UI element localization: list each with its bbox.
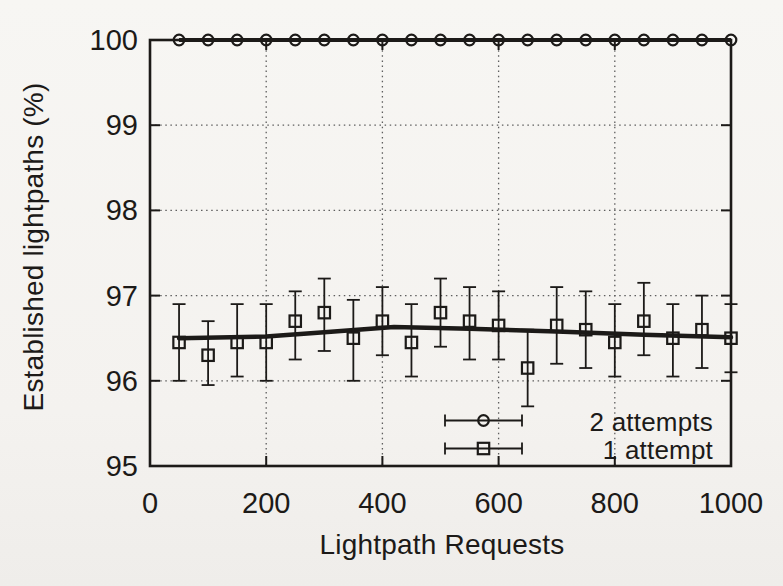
axis-ticks (150, 40, 731, 466)
y-tick-label: 99 (106, 109, 138, 141)
x-tick-label: 200 (242, 487, 290, 519)
y-tick-labels: 9596979899100 (90, 24, 138, 482)
y-tick-label: 97 (106, 280, 138, 312)
grid (150, 40, 731, 466)
x-tick-labels: 02004006008001000 (142, 487, 763, 519)
x-tick-label: 0 (142, 487, 158, 519)
y-axis-title: Established lightpaths (%) (18, 83, 50, 412)
y-tick-label: 98 (106, 194, 138, 226)
chart-canvas: 020040060080010009596979899100 (0, 0, 783, 586)
legend-label-2-attempts: 2 attempts (590, 407, 713, 438)
x-tick-label: 600 (474, 487, 522, 519)
x-tick-label: 800 (591, 487, 639, 519)
x-tick-label: 400 (358, 487, 406, 519)
x-tick-label: 1000 (699, 487, 764, 519)
series-1-attempt (173, 279, 738, 407)
series-2-attempts (174, 35, 737, 46)
plot-frame (150, 40, 731, 466)
x-axis-title: Lightpath Requests (320, 529, 565, 561)
legend-label-1-attempt: 1 attempt (603, 435, 713, 466)
figure: 020040060080010009596979899100 Establish… (0, 0, 783, 586)
y-tick-label: 96 (106, 365, 138, 397)
y-tick-label: 100 (90, 24, 138, 56)
y-tick-label: 95 (106, 450, 138, 482)
legend-samples (445, 415, 522, 455)
